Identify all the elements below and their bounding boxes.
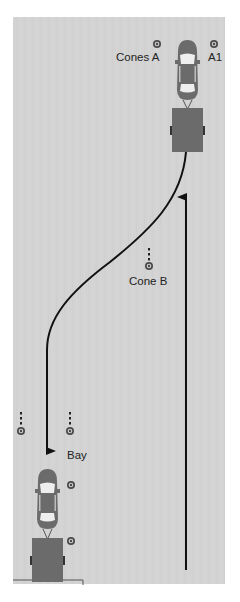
label-cone-b: Cone B — [129, 276, 167, 288]
label-cones-a: Cones A — [116, 52, 159, 64]
cone-icon — [17, 427, 25, 435]
manoeuvre-diagram: Cones A A1 Cone B Bay — [0, 0, 240, 602]
label-bay: Bay — [67, 450, 87, 462]
cone-icon — [67, 537, 75, 545]
cone-icon — [67, 481, 75, 489]
cone-icon — [210, 40, 218, 48]
cone-icon — [66, 427, 74, 435]
cone-icon — [153, 40, 161, 48]
label-a1: A1 — [208, 52, 222, 64]
cone-icon — [145, 262, 153, 270]
